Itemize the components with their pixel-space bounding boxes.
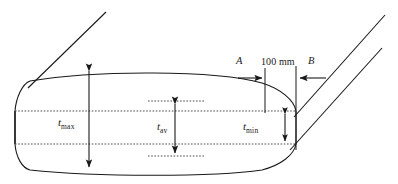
diagram-canvas (0, 0, 398, 184)
label-section-b: B (308, 56, 314, 67)
label-t-min: tmin (243, 117, 258, 133)
label-t-max: tmax (58, 113, 75, 129)
diagonal-reference-lines (28, 12, 385, 150)
t-max-subscript: max (61, 122, 75, 131)
label-t-av: tav (157, 117, 168, 133)
t-av-subscript: av (160, 126, 167, 135)
t-min-subscript: min (246, 126, 258, 135)
label-dimension-100mm: 100 mm (261, 57, 295, 67)
label-section-a: A (236, 56, 242, 67)
diagonal-lower-right (290, 48, 382, 150)
technical-diagram: tmax tav tmin A 100 mm B (0, 0, 398, 184)
